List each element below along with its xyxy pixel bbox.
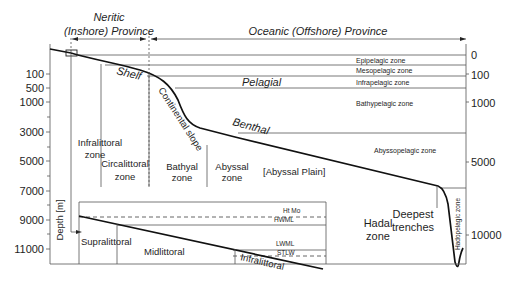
depth-axis-title: Depth [m] <box>54 199 65 240</box>
right-tick-10000: 10000 <box>471 229 502 241</box>
abyssal-plain-label: [Abyssal Plain] <box>263 166 325 177</box>
depth-tick-100: 100 <box>26 68 44 80</box>
neritic-subtitle: (Inshore) Province <box>64 25 154 37</box>
neritic-title: Neritic <box>93 11 125 23</box>
depth-tick-11000: 11000 <box>14 243 44 255</box>
mesopelagic-label: Mesopelagic zone <box>356 67 413 75</box>
depth-tick-5000: 5000 <box>20 155 44 167</box>
continental-slope-label: Continental slope <box>156 85 205 153</box>
right-tick-100: 100 <box>471 69 489 81</box>
arrow-left-icon <box>151 37 157 41</box>
arrow-left-icon <box>72 37 78 41</box>
hwml-label: HWML <box>274 216 294 223</box>
depth-tick-1000: 1000 <box>20 96 44 108</box>
infralittoral-label-1: Infralittoral <box>78 137 122 148</box>
abyssal-label-2: zone <box>222 172 243 183</box>
bathypelagic-label: Bathypelagic zone <box>356 100 413 108</box>
arrow-right-icon <box>140 37 146 41</box>
left-depth-axis: 100 500 1000 3000 5000 7000 9000 11000 D… <box>14 44 65 264</box>
right-tick-0: 0 <box>471 49 477 61</box>
abyssal-label-1: Abyssal <box>215 161 248 172</box>
hadal-label-2: zone <box>366 230 390 242</box>
depth-tick-7000: 7000 <box>20 185 44 197</box>
circalittoral-label-2: zone <box>115 171 136 182</box>
right-tick-5000: 5000 <box>471 156 495 168</box>
right-depth-axis: 0 100 1000 5000 10000 <box>466 44 502 264</box>
hadopelagic-label: Hadopelagic zone <box>454 198 462 250</box>
bathyal-label-2: zone <box>172 172 193 183</box>
ocean-zones-diagram: Neritic (Inshore) Province Oceanic (Offs… <box>0 0 516 284</box>
supralittoral-label: Supralittoral <box>81 236 132 247</box>
hadal-label-1: Hadal <box>364 217 393 229</box>
oceanic-title: Oceanic (Offshore) Province <box>249 25 388 37</box>
infrapelagic-label: Infrapelagic zone <box>356 79 409 87</box>
depth-tick-3000: 3000 <box>20 126 44 138</box>
deepest-trenches-line1: Deepest <box>393 208 434 220</box>
stlw-label: STLW <box>277 249 295 256</box>
abyssopelagic-label: Abyssopelagic zone <box>374 147 436 155</box>
right-tick-1000: 1000 <box>471 97 495 109</box>
lwml-label: LWML <box>276 240 295 247</box>
bathyal-label-1: Bathyal <box>166 161 198 172</box>
depth-tick-500: 500 <box>26 82 44 94</box>
deepest-trenches-line2: trenches <box>392 221 435 233</box>
depth-tick-9000: 9000 <box>20 214 44 226</box>
arrow-right-icon <box>460 37 466 41</box>
benthal-label: Benthal <box>231 115 271 136</box>
circalittoral-label-1: Circalittoral <box>101 158 149 169</box>
epipelagic-label: Epipelagic zone <box>356 57 406 65</box>
pelagial-label: Pelagial <box>242 76 282 88</box>
midlittoral-label: Midlittoral <box>144 246 185 257</box>
shelf-label: Shelf <box>116 64 144 82</box>
ht-mo-label: Ht Mo <box>283 207 301 214</box>
